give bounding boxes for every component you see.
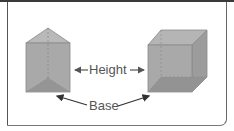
base-arrow-right-icon bbox=[118, 96, 149, 106]
height-label: Height bbox=[89, 63, 127, 77]
cube-icon bbox=[148, 30, 207, 92]
base-arrow-left-icon bbox=[57, 96, 87, 105]
base-label: Base bbox=[89, 99, 119, 113]
triangular-prism-icon bbox=[26, 28, 70, 92]
